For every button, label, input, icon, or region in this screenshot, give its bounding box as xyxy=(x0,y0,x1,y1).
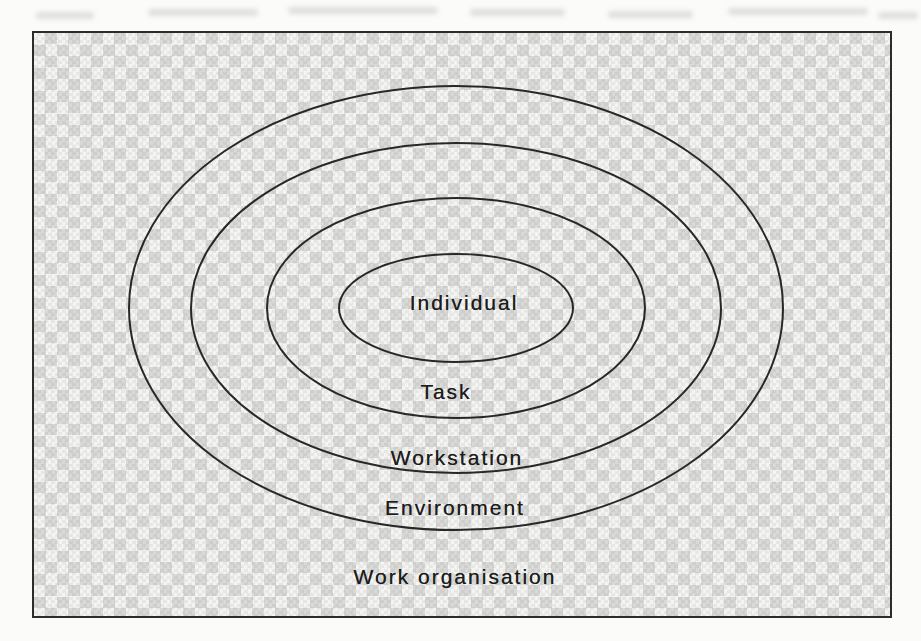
label-individual: Individual xyxy=(410,291,519,315)
scan-smudge xyxy=(608,11,693,18)
scan-smudge xyxy=(36,12,94,19)
label-environment: Environment xyxy=(385,496,525,520)
scanned-figure-page: Individual Task Workstation Environment … xyxy=(0,0,921,641)
scan-smudge xyxy=(728,8,868,15)
scan-smudge xyxy=(288,7,438,14)
scan-smudge xyxy=(878,12,918,19)
diagram-frame: Individual Task Workstation Environment … xyxy=(32,31,892,618)
scan-smudge xyxy=(470,9,565,16)
label-workstation: Workstation xyxy=(391,446,524,470)
concentric-ellipses-graphic xyxy=(34,33,890,616)
scan-smudge xyxy=(148,9,258,16)
label-work-organisation: Work organisation xyxy=(354,565,557,589)
label-task: Task xyxy=(420,380,471,404)
scan-artifacts xyxy=(0,0,921,26)
